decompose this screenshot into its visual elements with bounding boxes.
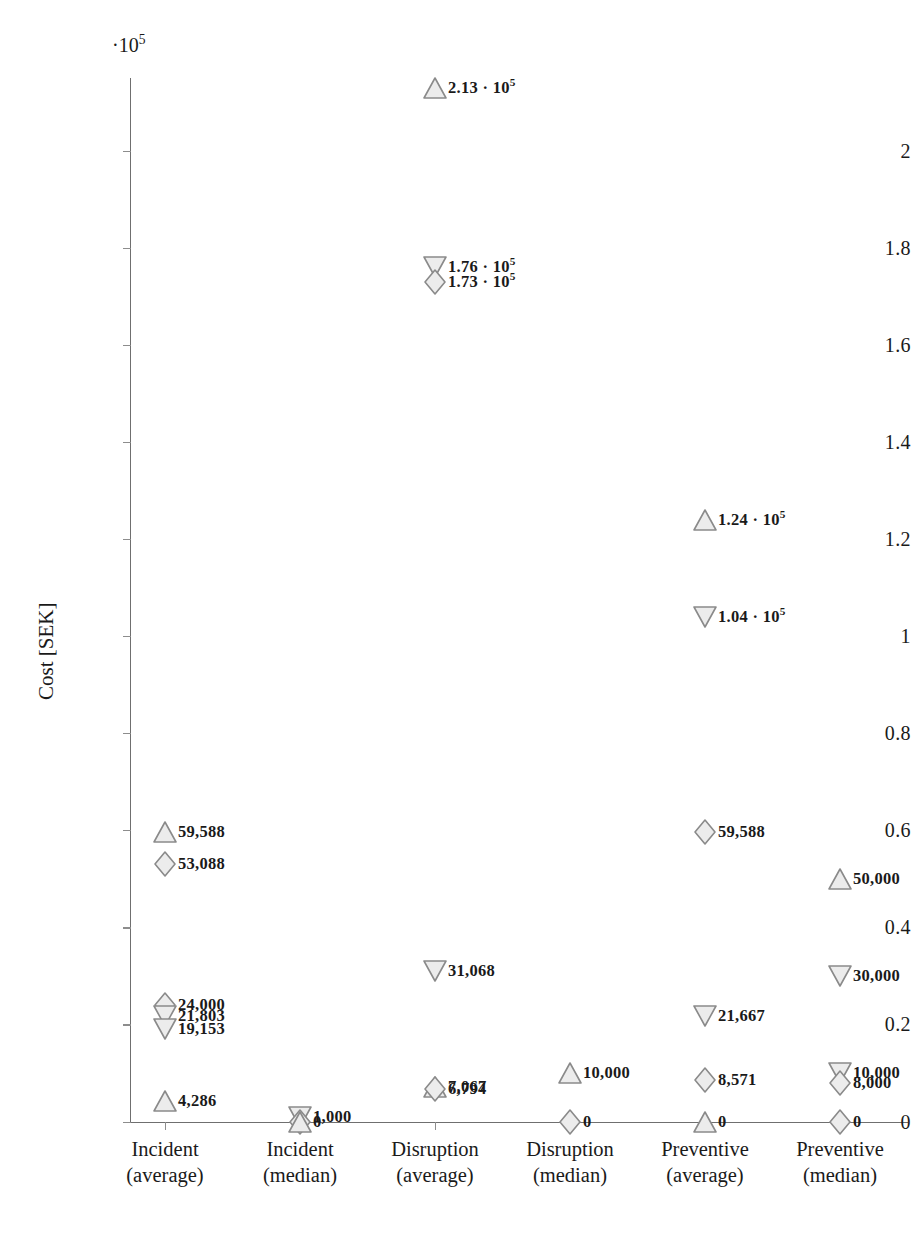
diamond-marker-icon (692, 1066, 718, 1094)
y-axis-multiplier-exponent: 5 (139, 32, 146, 47)
data-point-label: 31,068 (448, 962, 495, 979)
data-point-label: 1.04 · 105 (718, 608, 786, 625)
triangle-up-marker-icon (692, 1110, 718, 1134)
data-point-label: 6,794 (448, 1080, 487, 1097)
y-tick-label: 1.4 (837, 432, 911, 452)
y-tick-label: 1.6 (837, 335, 911, 355)
data-point-label-exponent: 5 (780, 605, 786, 617)
triangle-up-marker-icon (557, 1061, 583, 1085)
triangle-up-marker-icon (692, 508, 718, 532)
y-tick-mark (123, 1122, 131, 1123)
x-tick-label-line1: Disruption (360, 1136, 510, 1162)
y-axis-title: Cost [SEK] (34, 603, 59, 700)
diamond-marker-icon (422, 268, 448, 296)
data-point-label: 0 (313, 1113, 322, 1130)
y-tick-mark (123, 1024, 131, 1025)
x-tick-label-line1: Incident (225, 1136, 375, 1162)
x-tick-label-line2: (average) (360, 1162, 510, 1188)
data-point-label: 8,571 (718, 1072, 757, 1089)
diamond-marker-icon (422, 1075, 448, 1103)
data-point-label: 10,000 (583, 1065, 630, 1082)
y-tick-mark (123, 733, 131, 734)
triangle-up-marker-icon (152, 820, 178, 844)
data-point-label: 0 (718, 1113, 727, 1130)
diamond-marker-icon (692, 818, 718, 846)
y-tick-mark (123, 442, 131, 443)
triangle-up-marker-icon (827, 867, 853, 891)
y-tick-label: 2 (837, 141, 911, 161)
y-tick-label: 0.8 (837, 723, 911, 743)
x-tick-label-line2: (average) (90, 1162, 240, 1188)
data-point-label: 53,088 (178, 856, 225, 873)
x-tick-label: Incident(median) (225, 1136, 375, 1188)
x-tick-mark (435, 1122, 436, 1130)
triangle-up-marker-icon (422, 76, 448, 100)
data-point-label-exponent: 5 (780, 508, 786, 520)
data-point-label: 0 (583, 1113, 592, 1130)
data-point-label: 1.73 · 105 (448, 274, 516, 291)
y-tick-mark (123, 248, 131, 249)
y-tick-mark (123, 345, 131, 346)
x-tick-label-line1: Incident (90, 1136, 240, 1162)
data-point-label: 59,588 (178, 824, 225, 841)
x-tick-label-line1: Preventive (630, 1136, 780, 1162)
y-tick-mark (123, 830, 131, 831)
data-point-label-exponent: 5 (510, 256, 516, 268)
y-tick-mark (123, 539, 131, 540)
diamond-marker-icon (827, 1108, 853, 1136)
y-tick-label: 0.4 (837, 917, 911, 937)
x-tick-label: Preventive(median) (765, 1136, 911, 1188)
y-tick-mark (123, 927, 131, 928)
data-point-label: 21,667 (718, 1008, 765, 1025)
triangle-down-marker-icon (692, 1004, 718, 1028)
diamond-marker-icon (827, 1069, 853, 1097)
x-tick-label-line2: (median) (495, 1162, 645, 1188)
y-axis-line (130, 78, 131, 1122)
x-tick-label-line1: Preventive (765, 1136, 911, 1162)
triangle-down-marker-icon (152, 1017, 178, 1041)
x-tick-label-line2: (median) (225, 1162, 375, 1188)
data-point-label: 30,000 (853, 968, 900, 985)
y-tick-label: 0.2 (837, 1014, 911, 1034)
x-tick-label: Preventive(average) (630, 1136, 780, 1188)
diamond-marker-icon (152, 850, 178, 878)
data-point-label: 50,000 (853, 871, 900, 888)
x-tick-label-line2: (median) (765, 1162, 911, 1188)
y-tick-label: 1.2 (837, 529, 911, 549)
y-tick-mark (123, 636, 131, 637)
triangle-up-marker-icon (287, 1110, 313, 1134)
triangle-down-marker-icon (692, 605, 718, 629)
x-tick-label-line2: (average) (630, 1162, 780, 1188)
data-point-label: 19,153 (178, 1020, 225, 1037)
diamond-marker-icon (557, 1108, 583, 1136)
data-point-label: 8,000 (853, 1074, 892, 1091)
triangle-down-marker-icon (827, 964, 853, 988)
y-axis-multiplier-text: ·10 (112, 34, 139, 56)
y-tick-label: 1 (837, 626, 911, 646)
x-axis-line (130, 1122, 908, 1123)
x-tick-mark (165, 1122, 166, 1130)
y-tick-label: 0.6 (837, 820, 911, 840)
scatter-plot: ·105 Cost [SEK] 00.20.40.60.811.21.41.61… (0, 0, 911, 1235)
y-tick-label: 1.8 (837, 238, 911, 258)
data-point-label-exponent: 5 (510, 76, 516, 88)
x-tick-label-line1: Disruption (495, 1136, 645, 1162)
data-point-label: 4,286 (178, 1092, 217, 1109)
y-tick-mark (123, 151, 131, 152)
data-point-label: 1.24 · 105 (718, 511, 786, 528)
x-tick-label: Disruption(average) (360, 1136, 510, 1188)
triangle-up-marker-icon (152, 1089, 178, 1113)
data-point-label: 59,588 (718, 824, 765, 841)
x-tick-label: Incident(average) (90, 1136, 240, 1188)
y-axis-multiplier: ·105 (112, 34, 145, 57)
data-point-label: 0 (853, 1113, 862, 1130)
x-tick-label: Disruption(median) (495, 1136, 645, 1188)
triangle-down-marker-icon (422, 959, 448, 983)
data-point-label-exponent: 5 (510, 270, 516, 282)
data-point-label: 2.13 · 105 (448, 79, 516, 96)
